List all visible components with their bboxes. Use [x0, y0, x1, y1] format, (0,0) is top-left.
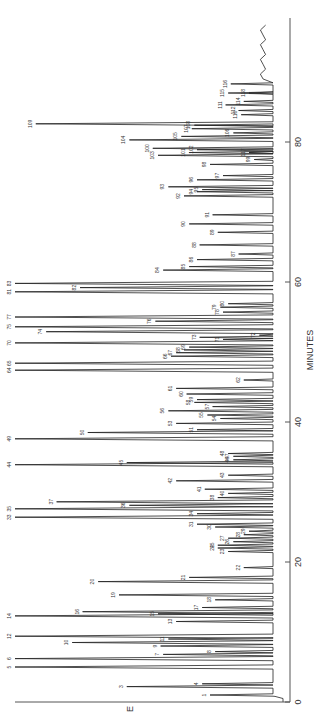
peak-label: 77 [6, 314, 12, 320]
peak-label: 118 [240, 89, 246, 97]
peak-label: 55 [198, 412, 204, 418]
peak-label: 7 [154, 653, 160, 656]
peak-label: 95 [193, 187, 199, 193]
peak-label: 106 [224, 129, 230, 138]
peak-label: 13 [167, 619, 173, 625]
peak-label: 112 [230, 106, 236, 114]
peak-label: 9 [152, 644, 158, 647]
peak-label: 111 [217, 101, 223, 109]
peak-label: 12 [6, 633, 12, 639]
peak-label: 34 [188, 511, 194, 517]
peak-label: 15 [149, 611, 155, 617]
peak-label: 69 [180, 344, 186, 350]
peak-label: 85 [180, 264, 186, 270]
peak-label: 87 [230, 251, 236, 257]
peak-label: 93 [159, 184, 165, 190]
peak-label: 75 [6, 324, 12, 330]
peak-label: 27 [219, 535, 225, 541]
peak-label: 71 [214, 336, 220, 342]
peak-label: 4 [193, 682, 199, 685]
time-axis-ticks: 020406080 [285, 137, 303, 705]
peak-label: 48 [219, 451, 225, 457]
peak-label: 104 [120, 136, 126, 145]
peak-label: 51 [188, 427, 194, 433]
peak-label: 40 [219, 490, 225, 496]
peak-label: 81 [6, 289, 12, 295]
peak-label: 54 [211, 416, 217, 422]
peak-label: 92 [175, 193, 181, 199]
peak-label: 11 [159, 636, 165, 641]
peak-label: 102 [188, 145, 194, 154]
peak-label: 83 [6, 280, 12, 286]
peak-label: 59 [188, 397, 194, 403]
peak-label: 33 [6, 514, 12, 520]
peak-label: 90 [180, 221, 186, 227]
peak-label: 19 [110, 592, 116, 598]
peak-label: 37 [48, 499, 54, 505]
peak-label: 25 [209, 542, 215, 548]
chromatogram-trace [15, 25, 283, 702]
peak-label: 98 [201, 161, 207, 167]
peak-label: 86 [188, 257, 194, 263]
tick-label: 80 [293, 137, 303, 147]
peak-label: 14 [6, 613, 12, 619]
chromatogram-line [15, 25, 283, 702]
peak-label: 79 [211, 304, 217, 310]
peak-label: 45 [118, 460, 124, 466]
peak-label: 62 [235, 377, 241, 383]
peak-label: 73 [191, 334, 197, 340]
peak-label: 96 [188, 177, 194, 183]
peak-label: 10 [63, 640, 69, 646]
peak-label: 5 [6, 665, 12, 668]
peak-label: 65 [6, 360, 12, 366]
peak-label: 35 [6, 506, 12, 512]
peak-label: 21 [180, 574, 186, 580]
peak-label: 89 [209, 229, 215, 235]
tick-label: 0 [293, 699, 303, 704]
peak-label: 57 [204, 404, 210, 410]
peak-label: 20 [89, 579, 95, 585]
peak-label: 44 [6, 462, 12, 468]
peak-label: 3 [118, 685, 124, 688]
peak-label: 6 [6, 657, 12, 660]
peak-label: 17 [193, 605, 199, 611]
peak-label: 114 [235, 97, 241, 105]
peak-label: 50 [79, 430, 85, 436]
peak-label: 80 [219, 301, 225, 307]
peak-label: 117 [240, 148, 246, 156]
peak-label: 30 [206, 524, 212, 530]
tick-label: 20 [293, 557, 303, 567]
peak-label: 29 [240, 528, 246, 534]
peak-label: 8 [206, 650, 212, 653]
signal-axis-title: E [125, 706, 135, 712]
peak-label: 47 [224, 453, 230, 459]
tick-label: 40 [293, 417, 303, 427]
peak-label: 72 [250, 332, 256, 338]
peak-label: 91 [204, 212, 210, 218]
peak-label: 61 [167, 385, 173, 391]
peak-label: 43 [219, 472, 225, 478]
peak-label: 1 [201, 693, 207, 696]
peak-label: 97 [214, 173, 220, 179]
time-axis-title: MINUTES [305, 330, 315, 371]
peak-label: 16 [74, 609, 80, 615]
peak-label: 23 [219, 549, 225, 555]
peak-label: 108 [185, 121, 191, 130]
peak-label: 103 [149, 151, 155, 160]
peak-label: 76 [146, 318, 152, 324]
peak-label: 18 [206, 597, 212, 603]
peak-label: 109 [27, 119, 33, 128]
peak-label: 42 [167, 478, 173, 484]
peak-label: 88 [191, 242, 197, 248]
peak-label: 115 [219, 89, 225, 97]
peak-label: 31 [188, 521, 194, 527]
peak-label: 99 [245, 157, 251, 163]
peak-label: 26 [224, 539, 230, 545]
peak-label: 67 [167, 350, 173, 356]
peak-label: 74 [37, 329, 43, 335]
peak-label: 105 [172, 132, 178, 141]
peak-label: 60 [178, 391, 184, 397]
peak-label: 53 [167, 420, 173, 426]
peak-label: 56 [159, 408, 165, 414]
peak-label: 116 [222, 80, 228, 88]
